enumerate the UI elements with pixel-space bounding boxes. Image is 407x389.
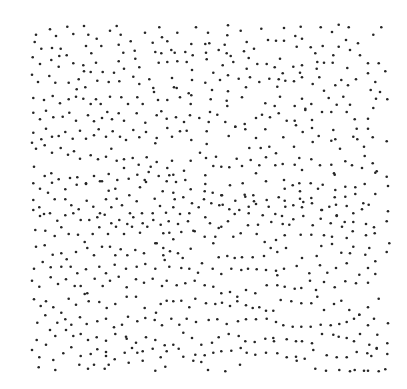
dot xyxy=(60,252,63,255)
dot xyxy=(279,57,282,60)
dot xyxy=(69,177,72,180)
dot xyxy=(118,219,121,222)
dot xyxy=(254,292,257,295)
dot xyxy=(331,235,334,238)
dot xyxy=(267,205,270,208)
dot xyxy=(99,180,102,183)
dot xyxy=(90,52,93,55)
dot xyxy=(191,69,194,72)
dot xyxy=(255,233,258,236)
dot xyxy=(301,340,304,343)
dot xyxy=(117,112,120,115)
dot xyxy=(265,284,268,287)
dot xyxy=(290,300,293,303)
dot xyxy=(239,232,242,235)
dot xyxy=(302,201,305,204)
dot xyxy=(345,39,348,42)
dot xyxy=(269,116,272,119)
dot xyxy=(275,239,278,242)
dot xyxy=(179,213,182,216)
dot xyxy=(119,248,122,251)
dot xyxy=(301,206,304,209)
dot xyxy=(157,99,160,102)
dot xyxy=(40,138,43,141)
dot xyxy=(172,300,175,303)
dot xyxy=(189,247,192,250)
dot xyxy=(273,340,276,343)
dot xyxy=(214,303,217,306)
dot xyxy=(141,350,144,353)
dot xyxy=(195,26,198,29)
dot xyxy=(141,212,144,215)
dot xyxy=(165,211,168,214)
dot xyxy=(147,171,150,174)
dot xyxy=(151,347,154,350)
dot xyxy=(77,233,80,236)
dot xyxy=(109,245,112,248)
dot xyxy=(53,235,56,238)
dot xyxy=(269,247,272,250)
dot xyxy=(38,206,41,209)
dot xyxy=(371,136,374,139)
dot xyxy=(353,369,356,372)
dot xyxy=(265,199,268,202)
dot xyxy=(205,157,208,160)
dot xyxy=(338,323,341,326)
dot xyxy=(38,356,41,359)
dot xyxy=(125,337,128,340)
dot xyxy=(119,135,122,138)
dot xyxy=(372,107,375,110)
dot xyxy=(385,251,388,254)
dot xyxy=(93,134,96,137)
dot xyxy=(367,267,370,270)
dot xyxy=(298,182,301,185)
dot xyxy=(125,295,128,298)
dot xyxy=(361,208,364,211)
dot xyxy=(177,223,180,226)
dot xyxy=(238,209,241,212)
dot xyxy=(283,39,286,42)
dot xyxy=(237,320,240,323)
dot xyxy=(100,45,103,48)
dot xyxy=(110,206,113,209)
dot xyxy=(149,165,152,168)
dot xyxy=(169,250,172,253)
dot xyxy=(257,223,260,226)
dot xyxy=(323,234,326,237)
dot xyxy=(155,114,158,117)
dot xyxy=(145,156,148,159)
dot xyxy=(54,81,57,84)
dot xyxy=(373,317,376,320)
dot xyxy=(45,127,48,130)
dot xyxy=(106,111,109,114)
dot xyxy=(101,285,104,288)
dot xyxy=(163,344,166,347)
dot xyxy=(40,47,43,50)
dot xyxy=(377,297,380,300)
dot xyxy=(73,285,76,288)
dot xyxy=(125,139,128,142)
dot xyxy=(67,98,70,101)
dot xyxy=(388,242,391,245)
dot xyxy=(67,81,70,84)
dot xyxy=(110,147,113,150)
dot xyxy=(270,221,273,224)
dot xyxy=(207,31,210,34)
dot xyxy=(83,293,86,296)
dot xyxy=(243,123,246,126)
dot xyxy=(276,251,279,254)
dot xyxy=(35,339,38,342)
dot xyxy=(65,278,68,281)
dot xyxy=(135,112,138,115)
dot xyxy=(65,258,68,261)
dot xyxy=(251,307,254,310)
dot xyxy=(234,125,237,128)
dot xyxy=(292,65,295,68)
dot xyxy=(33,165,36,168)
dot xyxy=(96,79,99,82)
dot xyxy=(225,52,228,55)
dot xyxy=(227,90,230,93)
dot xyxy=(374,273,377,276)
dot xyxy=(189,188,192,191)
dot xyxy=(117,275,120,278)
